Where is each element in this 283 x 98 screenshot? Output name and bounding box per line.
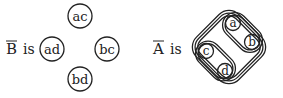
node-c: c: [199, 44, 214, 59]
node-ac: ac: [68, 4, 92, 28]
node-a: a: [226, 16, 241, 31]
svg-text:c: c: [203, 44, 210, 58]
is-text: is: [23, 41, 35, 57]
is-text: is: [170, 41, 182, 57]
svg-text:b: b: [248, 35, 256, 49]
node-bc: bc: [95, 37, 119, 61]
b-symbol: B: [6, 40, 17, 58]
b-bar-label: B is: [6, 40, 35, 58]
svg-text:d: d: [221, 64, 229, 78]
node-ad: ad: [40, 37, 64, 61]
diagram-canvas: B is ac ad bc bd A is a: [0, 0, 283, 98]
node-bd: bd: [68, 67, 92, 91]
node-d: d: [218, 64, 233, 79]
svg-text:ad: ad: [44, 42, 60, 57]
svg-text:bc: bc: [99, 42, 115, 57]
a-symbol: A: [152, 40, 164, 58]
svg-text:bd: bd: [72, 72, 89, 87]
node-b: b: [245, 35, 260, 50]
svg-text:ac: ac: [72, 9, 87, 24]
svg-text:a: a: [229, 16, 236, 30]
a-bar-label: A is: [152, 40, 182, 58]
